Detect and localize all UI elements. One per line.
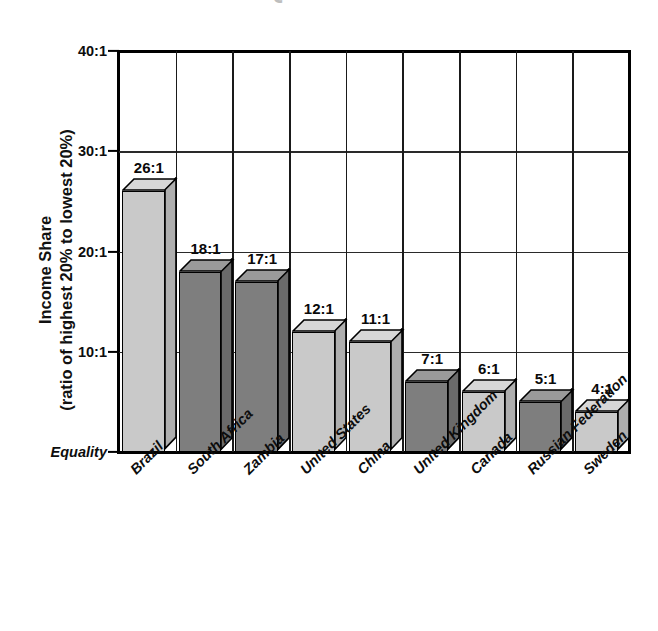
y-axis-tick-mark — [108, 351, 119, 353]
plot-frame-top — [117, 50, 631, 53]
bar-face-top — [179, 259, 236, 273]
chart-title-cropped: GLOBAL INEQUALITY — [95, 0, 525, 4]
y-axis-title: Income Share (ratio of highest 20% to lo… — [35, 70, 79, 470]
bar-face-side — [164, 177, 178, 452]
bar: 26:1 — [122, 191, 165, 452]
y-axis-tick-mark — [108, 451, 119, 453]
bar-face-top — [292, 319, 349, 333]
bar-value-label: 26:1 — [128, 159, 171, 176]
bar: 18:1 — [179, 272, 222, 452]
bar-face-top — [519, 389, 576, 403]
bar-face-side — [277, 268, 291, 452]
y-axis-tick-mark — [108, 250, 119, 252]
bar-value-label: 11:1 — [354, 310, 397, 327]
bar-value-label: 18:1 — [184, 240, 227, 257]
bar-value-label: 12:1 — [298, 300, 341, 317]
y-axis-tick-mark — [108, 150, 119, 152]
y-axis-tick-mark — [108, 50, 119, 52]
y-axis-title-line-2: (ratio of highest 20% to lowest 20%) — [56, 70, 77, 470]
bar-face-front — [349, 342, 392, 452]
bar-face-top — [122, 178, 179, 192]
bar-face-top — [235, 269, 292, 283]
bar-face-side — [390, 328, 404, 452]
chart-figure: GLOBAL INEQUALITY Income Share (ratio of… — [0, 0, 658, 631]
bar-face-top — [349, 329, 406, 343]
bar-value-label: 7:1 — [411, 350, 454, 367]
bar-value-label: 6:1 — [468, 360, 511, 377]
bar-value-label: 5:1 — [524, 370, 567, 387]
bar-face-top — [405, 369, 462, 383]
gridline-horizontal — [119, 151, 629, 152]
bar-value-label: 17:1 — [241, 250, 284, 267]
bar-face-front — [179, 272, 222, 452]
bar: 11:1 — [349, 342, 392, 452]
plot-area: Equality10:120:130:140:1 26:118:117:112:… — [119, 51, 629, 452]
bar-face-front — [122, 191, 165, 452]
y-axis-title-line-1: Income Share — [35, 70, 56, 470]
